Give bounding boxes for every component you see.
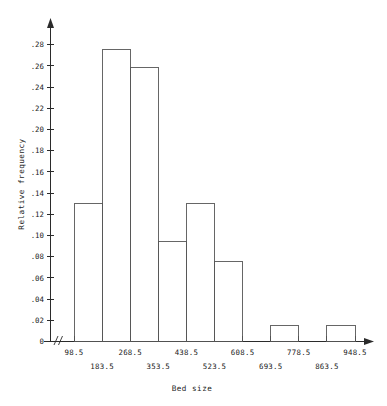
x-axis-arrow-icon xyxy=(364,338,374,345)
x-tick-label: 523.5 xyxy=(203,362,227,371)
axis-break-icon xyxy=(54,336,63,345)
histogram-bar xyxy=(327,326,355,342)
y-tick-label: .02 xyxy=(31,316,44,325)
y-tick-label: .14 xyxy=(31,189,45,198)
y-tick-label: .06 xyxy=(31,274,44,283)
histogram-bars xyxy=(74,50,355,342)
x-axis-tick-labels: 98.5183.5268.5353.5438.5523.5608.5693.57… xyxy=(65,348,367,371)
y-tick-label: .24 xyxy=(31,83,45,92)
y-tick-label: .22 xyxy=(31,104,44,113)
histogram-chart: 0.02.04.06.08.10.12.14.16.18.20.22.24.26… xyxy=(0,0,387,406)
x-tick-label: 693.5 xyxy=(259,362,283,371)
y-tick-label: .28 xyxy=(31,40,44,49)
y-tick-label: .16 xyxy=(31,168,44,177)
x-tick-label: 438.5 xyxy=(175,348,199,357)
y-tick-label: .26 xyxy=(31,62,44,71)
y-tick-label: .12 xyxy=(31,210,44,219)
histogram-bar xyxy=(186,204,214,342)
x-tick-label: 183.5 xyxy=(90,362,114,371)
x-axis-title: Bed size xyxy=(172,384,213,393)
histogram-bar xyxy=(130,68,158,342)
x-tick-label: 608.5 xyxy=(231,348,255,357)
y-tick-label: .18 xyxy=(31,146,44,155)
y-tick-label: .10 xyxy=(31,231,44,240)
y-tick-label: 0 xyxy=(40,337,44,346)
histogram-bar xyxy=(102,50,130,342)
x-tick-label: 778.5 xyxy=(287,348,311,357)
x-tick-label: 948.5 xyxy=(343,348,367,357)
histogram-bar xyxy=(271,326,299,342)
y-tick-label: .04 xyxy=(31,295,45,304)
histogram-bar xyxy=(215,262,243,342)
histogram-bar xyxy=(158,242,186,342)
x-tick-label: 98.5 xyxy=(65,348,84,357)
histogram-bar xyxy=(74,204,102,342)
y-axis-title: Relative frequency xyxy=(17,138,26,229)
chart-canvas: 0.02.04.06.08.10.12.14.16.18.20.22.24.26… xyxy=(0,0,387,406)
x-tick-label: 268.5 xyxy=(118,348,142,357)
x-tick-label: 353.5 xyxy=(147,362,171,371)
y-tick-label: .20 xyxy=(31,125,44,134)
y-axis-tick-labels: 0.02.04.06.08.10.12.14.16.18.20.22.24.26… xyxy=(31,40,45,346)
y-axis-arrow-icon xyxy=(47,18,54,28)
x-tick-label: 863.5 xyxy=(315,362,339,371)
y-tick-label: .08 xyxy=(31,252,44,261)
